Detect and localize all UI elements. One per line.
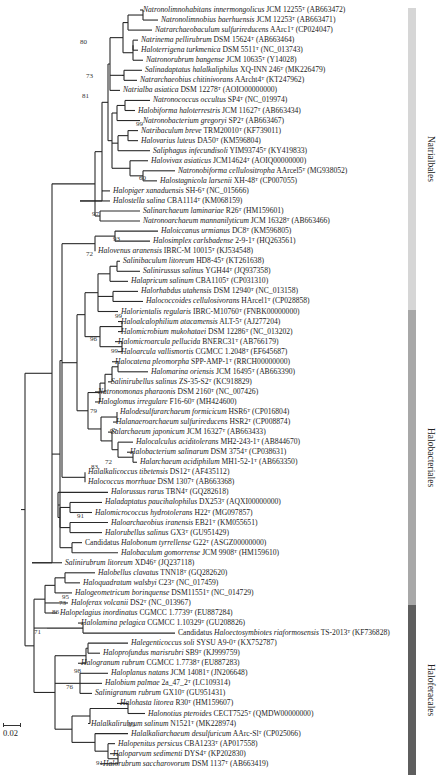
order-label: Halobacteriales: [420, 310, 442, 605]
tree-leaf: Haladaptatus paucihalophilus DX253T (AQX…: [105, 497, 281, 507]
tree-leaf: Halobellus clavatus TNN18T (GQ282620): [98, 568, 227, 578]
order-label: Haloferacales: [420, 605, 442, 775]
tree-leaf: Halobium palmae 2a_47_2T (LC109314): [105, 678, 230, 688]
tree-leaf: Haloalcalophilium atacamensis ALT-5T (AJ…: [121, 317, 280, 327]
tree-leaf: Salinirussus salinus YGH44T (JQ937358): [143, 266, 271, 276]
tree-leaf: Halogeometricum borinquense DSM11551T (N…: [75, 588, 254, 598]
tree-leaf: Salinirubellus salinus ZS-35-S2T (KC9188…: [111, 377, 252, 387]
bootstrap-value: 86: [52, 608, 59, 616]
tree-leaf: Halogranum rubrum CGMCC 1.7738T (EU88728…: [81, 658, 240, 668]
tree-leaf: Halalkalicoccus tibetensis DS12T (AF4351…: [88, 467, 229, 477]
tree-leaf: Halonotius pteroides CECT7525T (QMDW0000…: [148, 709, 313, 719]
tree-leaf: Halegenticoccus soli SYSU A9-0T (KX75278…: [131, 638, 277, 648]
tree-leaf: Halocalculus aciditolerans MH2-243-1T (A…: [136, 437, 300, 447]
tree-leaf: Halapricum salinum CBA1105T (CP031310): [131, 276, 268, 286]
bootstrap-value: 76: [66, 683, 73, 691]
bootstrap-value: 80: [80, 38, 87, 46]
tree-leaf: Haloglomus irregulare F16-60T (MH424600): [98, 397, 237, 407]
order-bar-natrialbales: [408, 8, 416, 310]
bootstrap-value: 72: [105, 458, 112, 466]
bootstrap-value: 72: [86, 250, 93, 258]
bootstrap-value: 73: [59, 599, 66, 607]
tree-leaf: Natronomonas pharaonis DSM 2160T (NC_007…: [98, 387, 258, 397]
bootstrap-value: 81: [82, 92, 89, 100]
tree-leaf: Natrarchaeobius chitinivorans AArcht4T (…: [140, 75, 304, 85]
scale-bar-line: [3, 723, 21, 727]
tree-leaf: Candidatus Halobonum tyrrellense G22T (A…: [85, 538, 266, 548]
tree-leaf: Natrarchaeobaculum sulfurireducens AArc1…: [155, 25, 333, 35]
tree-leaf: Halopiger xanaduensis SH-6T (NC_015666): [113, 186, 249, 196]
tree-leaf: Halanaeroarchaeum sulfurireducens HSR2T …: [116, 417, 290, 427]
tree-leaf: Halalkaliarchaeum desulfuricum AArc-SlT …: [131, 729, 301, 739]
order-bar-haloferacales: [408, 605, 416, 775]
tree-leaf: Haloiccanus urmianus DC8T (KM596805): [161, 226, 291, 236]
tree-leaf: Haloarcula vallismortis CGMCC 1.2048T (E…: [121, 347, 287, 357]
bootstrap-value: 91: [77, 512, 84, 520]
tree-leaf: Natronolimnobius baerhuensis JCM 12253T …: [161, 15, 335, 25]
tree-leaf: Halococcoides cellulosivorans HArcel1T (…: [146, 296, 310, 306]
tree-leaf: Halobaculum gomorrense JCM 9908T (HM1596…: [121, 548, 279, 558]
tree-leaf: Halorubellus salinus GX3T (GU951429): [105, 528, 229, 538]
tree-leaf: Haloterrigena turkmenica DSM 5511T (NC_0…: [141, 45, 303, 55]
tree-leaf: Halovarius luteus DA50T (KM596804): [141, 136, 261, 146]
tree-leaf: Halococcus morrhuae DSM 1307T (AB663368): [88, 477, 234, 487]
order-label: Natrialbales: [420, 8, 442, 310]
bootstrap-value: 98: [74, 667, 81, 675]
tree-leaf: Halosimplex carlsbadense 2-9-1T (HQ26356…: [153, 236, 296, 246]
bootstrap-value: 97: [92, 210, 99, 218]
bootstrap-value: 97: [110, 427, 117, 435]
tree-leaf: Haloarchaeobius iranensis EB21T (KM05565…: [111, 518, 257, 528]
tree-leaf: Halalkalirubrum salinum N1521T (MK228974…: [91, 719, 236, 729]
order-bar-halobacteriales: [408, 310, 416, 605]
tree-leaf: Salarchaeum japonicum JCM 16327T (AB6634…: [111, 427, 266, 437]
tree-leaf: Halolamina pelagica CGMCC 1.10329T (GU20…: [81, 618, 245, 628]
tree-leaf: Saliphagus infecundisoli YIM93745T (KY41…: [153, 146, 307, 156]
bootstrap-value: 93: [113, 235, 120, 243]
tree-leaf: Halopenitus persicus CBA1233T (AP017558): [118, 739, 258, 749]
tree-leaf: Halorientalis regularis IBRC-M10760T (FN…: [121, 307, 300, 317]
tree-leaf: Halopelagius inordinatus CGMCC 1.7739T (…: [60, 608, 233, 618]
tree-leaf: Haloparvum sedimenti DYS4T (KP202830): [113, 749, 246, 759]
tree-leaf: Natronorubrum bangense JCM 10635T (Y1402…: [146, 55, 296, 65]
bootstrap-value: 60: [139, 174, 146, 182]
tree-leaf: Haloferax volcanii DS2T (NC_013967): [71, 598, 191, 608]
tree-leaf: Halobacterium salinarum DSM 3754T (CP038…: [130, 447, 286, 457]
bootstrap-value: 99: [128, 721, 135, 729]
tree-leaf: Halorhabdus utahensis DSM 12940T (NC_013…: [141, 286, 298, 296]
tree-leaf: Halovivax asiaticus JCM14624T (AOIQ00000…: [151, 156, 306, 166]
scale-bar: 0.02: [3, 723, 21, 738]
tree-leaf: Candidatus Haloectosymbiotes riaformosen…: [178, 628, 390, 638]
bootstrap-value: 73: [86, 72, 93, 80]
tree-leaf: Halorubrum saccharovorum DSM 1137T (AB66…: [103, 759, 268, 769]
tree-leaf: Salinigranum rubrum GX10T (GU951431): [95, 688, 225, 698]
tree-leaf: Natrialba asiatica DSM 12278T (AOIO00000…: [123, 85, 277, 95]
tree-leaf: Natrinema pellirubrum DSM 15624T (AB6634…: [141, 35, 294, 45]
bootstrap-value: 99: [111, 347, 118, 355]
tree-leaf: Natronococcus occultus SP4T (NC_019974): [153, 95, 287, 105]
tree-leaf: Halostagnicola larsenii XH-48T (CP007055…: [160, 176, 297, 186]
tree-leaf: Halohasta litorea R30T (HM159607): [120, 698, 233, 708]
tree-leaf: Halomicroarcula pellucida BNERC31T (AB76…: [118, 337, 279, 347]
tree-leaf: Halobiforma haloterrestris JCM 11627T (A…: [138, 106, 301, 116]
tree-leaf: Salinibaculum litoreum HD8-45T (KT261638…: [123, 256, 264, 266]
tree-leaf: Halovenus aranensis IBRC-M 10015T (KJ534…: [98, 246, 253, 256]
bootstrap-value: 71: [34, 628, 41, 636]
tree-leaf: Halodesulfurarchaeum formicicum HSR6T (C…: [120, 407, 289, 417]
tree-leaf: Halomicrobium mukohataei DSM 12286T (NC_…: [121, 327, 293, 337]
tree-leaf: Salinarchaeum laminariae R26T (HM159601): [143, 206, 284, 216]
bootstrap-value: 79: [90, 407, 97, 415]
tree-leaf: Natronobacterium gregoryi SP2T (AB663467…: [143, 116, 284, 126]
tree-leaf: Haloplanus natans JCM 14081T (JN206648): [111, 668, 247, 678]
tree-leaf: Natronobiforma cellulositropha AArcel5T …: [178, 166, 347, 176]
bootstrap-value: 96: [90, 335, 97, 343]
scale-bar-label: 0.02: [3, 728, 21, 738]
tree-leaf: Natribaculum breve TRM20010T (KF739011): [141, 126, 281, 136]
tree-leaf: Halomicrococcus hydrotolerans H22T (MG09…: [95, 508, 253, 518]
tree-leaf: Salinirubrum litoreum XD46T (JQ237118): [65, 558, 194, 568]
bootstrap-value: 99: [136, 120, 143, 128]
tree-leaf: Halarchaeum acidiphilum MH1-52-1T (AB663…: [140, 457, 297, 467]
tree-leaf: Haloquadratum walsbyi C23T (NC_017459): [83, 578, 218, 588]
tree-leaf: Salinadaptatus halalkaliphilus XQ-INN 24…: [145, 65, 325, 75]
tree-leaf: Haloprofundus marisrubri SB9T (KJ999759): [103, 648, 240, 658]
tree-leaf: Halocatena pleomorpha SPP-AMP-1T (RRCH00…: [115, 357, 290, 367]
